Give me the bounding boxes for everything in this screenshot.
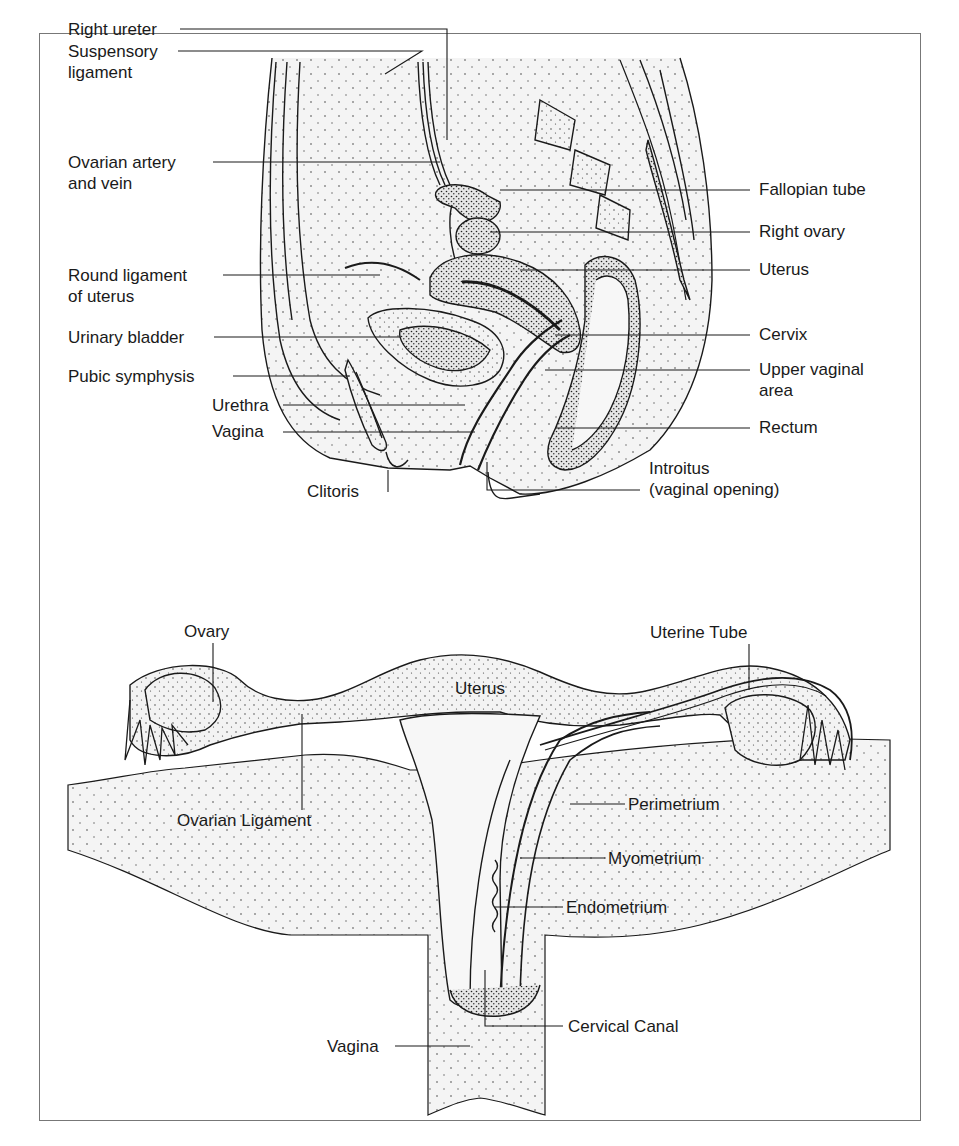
label-clitoris: Clitoris — [307, 481, 359, 502]
label-upper-vaginal-area: Upper vaginal area — [759, 359, 864, 401]
label-vagina-frontal: Vagina — [327, 1036, 379, 1057]
label-myometrium: Myometrium — [608, 848, 702, 869]
label-ovary: Ovary — [184, 621, 229, 642]
label-pubic-symphysis: Pubic symphysis — [68, 366, 195, 387]
left-ovary-shape — [145, 673, 221, 732]
label-perimetrium: Perimetrium — [628, 794, 720, 815]
label-fallopian-tube: Fallopian tube — [759, 179, 866, 200]
label-right-ovary: Right ovary — [759, 221, 845, 242]
label-ovarian-artery-vein: Ovarian artery and vein — [68, 152, 176, 194]
label-introitus: Introitus (vaginal opening) — [649, 458, 779, 500]
label-rectum: Rectum — [759, 417, 818, 438]
label-vagina-sagittal: Vagina — [212, 421, 264, 442]
label-uterus-frontal: Uterus — [455, 678, 505, 699]
label-urinary-bladder: Urinary bladder — [68, 327, 184, 348]
label-uterus-sagittal: Uterus — [759, 259, 809, 280]
sagittal-view-illustration — [260, 58, 712, 499]
label-uterine-tube: Uterine Tube — [650, 622, 747, 643]
frontal-view-illustration — [68, 655, 890, 1115]
label-cervical-canal: Cervical Canal — [568, 1016, 679, 1037]
label-endometrium: Endometrium — [566, 897, 667, 918]
label-urethra: Urethra — [212, 395, 269, 416]
label-cervix: Cervix — [759, 324, 807, 345]
label-right-ureter: Right ureter — [68, 19, 157, 40]
right-ovary-shape — [456, 218, 500, 254]
label-suspensory-ligament: Suspensory ligament — [68, 41, 158, 83]
label-ovarian-ligament: Ovarian Ligament — [177, 810, 311, 831]
label-round-ligament: Round ligament of uterus — [68, 265, 187, 307]
